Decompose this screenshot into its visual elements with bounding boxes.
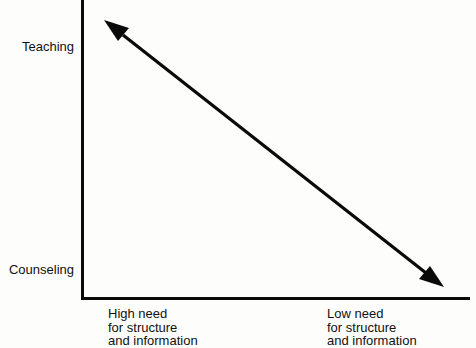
x-axis-line xyxy=(81,297,470,300)
y-axis-line xyxy=(81,0,84,300)
y-axis-label-teaching: Teaching xyxy=(22,39,74,54)
x-axis-label-low-need-line-1: Low need xyxy=(327,307,417,321)
x-axis-label-high-need: High need for structure and information xyxy=(108,307,198,348)
arrow-shaft xyxy=(123,35,426,273)
arrowhead-upper-left xyxy=(104,20,129,41)
x-axis-label-low-need-line-3: and information xyxy=(327,334,417,348)
arrowhead-lower-right xyxy=(419,266,444,287)
x-axis-label-low-need: Low need for structure and information xyxy=(327,307,417,348)
x-axis-label-high-need-line-2: for structure xyxy=(108,321,198,335)
x-axis-label-high-need-line-1: High need xyxy=(108,307,198,321)
x-axis-label-low-need-line-2: for structure xyxy=(327,321,417,335)
x-axis-label-high-need-line-3: and information xyxy=(108,334,198,348)
y-axis-label-counseling: Counseling xyxy=(9,262,74,277)
diagram-canvas: Teaching Counseling High need for struct… xyxy=(0,0,476,348)
